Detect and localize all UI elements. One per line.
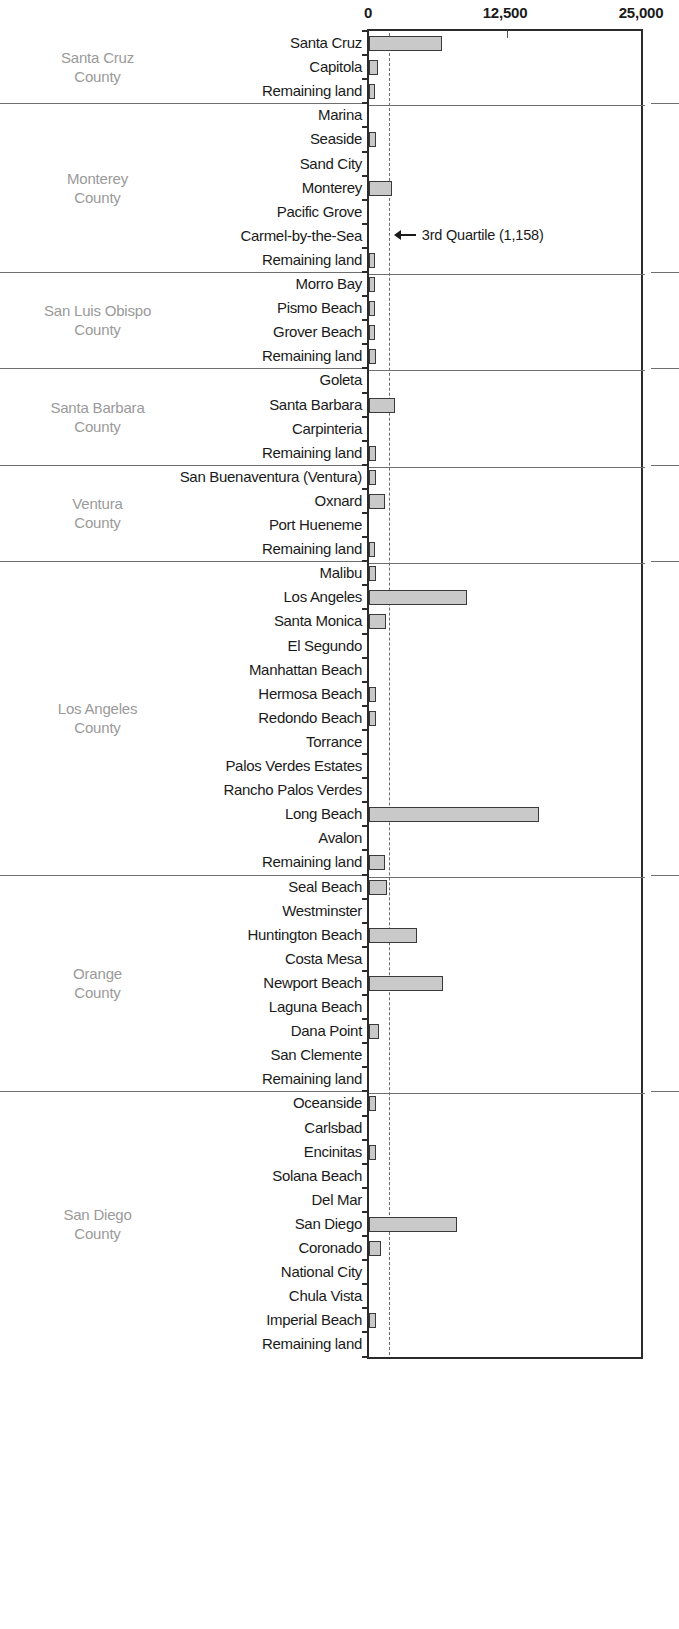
group-separator-right xyxy=(651,875,679,876)
y-axis-tick xyxy=(362,102,368,104)
y-axis-tick xyxy=(362,536,368,538)
category-label: Pacific Grove xyxy=(0,203,362,220)
y-axis-tick xyxy=(362,633,368,635)
category-label: Remaining land xyxy=(0,1070,362,1087)
category-label: Palos Verdes Estates xyxy=(0,757,362,774)
category-label: Del Mar xyxy=(0,1191,362,1208)
category-label: San Diego xyxy=(0,1215,362,1232)
y-axis-tick xyxy=(362,1163,368,1165)
category-label: Avalon xyxy=(0,829,362,846)
y-axis-tick xyxy=(362,560,368,562)
y-axis-tick xyxy=(362,1115,368,1117)
category-label: Huntington Beach xyxy=(0,926,362,943)
bar xyxy=(369,301,375,316)
y-axis-tick xyxy=(362,584,368,586)
y-axis-tick xyxy=(362,416,368,418)
bar xyxy=(369,614,386,629)
bar xyxy=(369,1313,376,1328)
y-axis-tick xyxy=(362,825,368,827)
category-label: El Segundo xyxy=(0,637,362,654)
group-separator-right xyxy=(651,465,679,466)
y-axis-tick xyxy=(362,922,368,924)
bar xyxy=(369,880,387,895)
category-label: Remaining land xyxy=(0,540,362,557)
y-axis-tick xyxy=(362,898,368,900)
bar xyxy=(369,84,375,99)
category-label: Costa Mesa xyxy=(0,950,362,967)
x-axis-midpoint-tick xyxy=(507,31,508,38)
category-label: Remaining land xyxy=(0,1335,362,1352)
category-label: Grover Beach xyxy=(0,323,362,340)
group-separator-right xyxy=(651,368,679,369)
category-label: Solana Beach xyxy=(0,1167,362,1184)
category-label: Seal Beach xyxy=(0,878,362,895)
x-axis-tick-label: 0 xyxy=(364,4,372,21)
group-separator-inner xyxy=(369,105,645,106)
group-separator xyxy=(0,272,367,273)
y-axis-tick xyxy=(362,729,368,731)
bar xyxy=(369,398,395,413)
category-label: Hermosa Beach xyxy=(0,685,362,702)
group-separator-right xyxy=(651,103,679,104)
bar xyxy=(369,542,375,557)
category-label: Capitola xyxy=(0,58,362,75)
y-axis-tick xyxy=(362,343,368,345)
y-axis-tick xyxy=(362,946,368,948)
group-separator xyxy=(0,103,367,104)
x-axis-tick-label: 12,500 xyxy=(483,4,528,21)
y-axis-tick xyxy=(362,1066,368,1068)
group-separator xyxy=(0,465,367,466)
category-label: Coronado xyxy=(0,1239,362,1256)
category-label: Remaining land xyxy=(0,251,362,268)
category-label: Redondo Beach xyxy=(0,709,362,726)
y-axis-tick xyxy=(362,874,368,876)
y-axis-tick xyxy=(362,295,368,297)
y-axis-tick xyxy=(362,801,368,803)
bar xyxy=(369,60,378,75)
y-axis-tick xyxy=(362,777,368,779)
quartile-annotation: 3rd Quartile (1,158) xyxy=(394,227,544,243)
category-label: Carlsbad xyxy=(0,1119,362,1136)
category-label: Chula Vista xyxy=(0,1287,362,1304)
horizontal-bar-chart: 012,50025,000 Santa CruzCountyMontereyCo… xyxy=(0,0,679,1629)
category-label: Encinitas xyxy=(0,1143,362,1160)
category-label: Pismo Beach xyxy=(0,299,362,316)
y-axis-tick xyxy=(362,464,368,466)
category-label: Oceanside xyxy=(0,1094,362,1111)
group-separator-inner xyxy=(369,467,645,468)
category-label: Rancho Palos Verdes xyxy=(0,781,362,798)
category-label: Laguna Beach xyxy=(0,998,362,1015)
group-separator-inner xyxy=(369,370,645,371)
category-label: Carmel-by-the-Sea xyxy=(0,227,362,244)
y-axis-tick xyxy=(362,753,368,755)
bar xyxy=(369,181,392,196)
category-label: Manhattan Beach xyxy=(0,661,362,678)
y-axis-tick xyxy=(362,175,368,177)
category-label: Torrance xyxy=(0,733,362,750)
group-separator xyxy=(0,368,367,369)
y-axis-tick xyxy=(362,78,368,80)
group-separator xyxy=(0,875,367,876)
y-axis-tick xyxy=(362,1018,368,1020)
category-label: Los Angeles xyxy=(0,588,362,605)
bar xyxy=(369,1096,376,1111)
y-axis-tick xyxy=(362,223,368,225)
y-axis-tick xyxy=(362,681,368,683)
x-axis-tick-label: 25,000 xyxy=(619,4,664,21)
category-label: Santa Cruz xyxy=(0,34,362,51)
y-axis-tick xyxy=(362,1090,368,1092)
category-label: Morro Bay xyxy=(0,275,362,292)
x-axis-top: 012,50025,000 xyxy=(0,0,679,28)
y-axis-tick xyxy=(362,199,368,201)
y-axis-tick xyxy=(362,271,368,273)
category-label: Long Beach xyxy=(0,805,362,822)
bar xyxy=(369,687,376,702)
category-label: Sand City xyxy=(0,155,362,172)
bar xyxy=(369,1241,381,1256)
category-label: Monterey xyxy=(0,179,362,196)
bar xyxy=(369,36,442,51)
y-axis-tick xyxy=(362,54,368,56)
category-label: Remaining land xyxy=(0,347,362,364)
category-label: National City xyxy=(0,1263,362,1280)
quartile-reference-line xyxy=(389,33,390,1355)
